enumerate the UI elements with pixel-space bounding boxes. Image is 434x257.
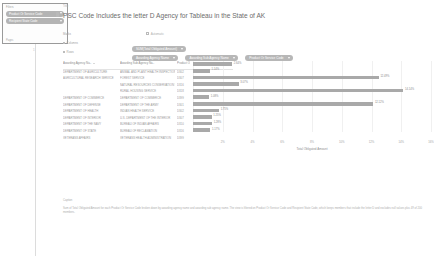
shelves: Marks Automatic Columns SUM(Total Obliga…	[60, 30, 431, 57]
chevron-down-icon[interactable]	[173, 57, 175, 59]
bar-value-label: 1.25%	[213, 114, 221, 117]
columns-shelf-label: Columns	[63, 41, 78, 45]
columns-shelf-text: Columns	[67, 41, 78, 45]
bar-value-label: 12.49%	[380, 75, 389, 78]
grid-icon	[63, 42, 65, 44]
filter-pill-label: Product Or Service Code	[9, 12, 42, 16]
rows-shelf-label: Rows	[63, 50, 74, 54]
cell-awarding-sub-agency-name: INDIAN HEALTH SERVICE	[120, 109, 175, 113]
bar[interactable]	[193, 89, 403, 93]
cell-awarding-agency-name: DEPARTMENT OF DEFENSE	[63, 103, 119, 107]
bar[interactable]	[193, 76, 379, 80]
cell-product-or-service-code: D307	[177, 76, 190, 80]
bar-value-label: 12.12%	[375, 101, 384, 104]
column-header-awarding-agency-name[interactable]: Awarding Agency Na..	[63, 61, 119, 65]
cell-awarding-agency-name: DEPARTMENT OF STATE	[63, 129, 119, 133]
cell-awarding-sub-agency-name: BUREAU OF INDIAN AFFAIRS	[120, 122, 175, 126]
cell-product-or-service-code: D302	[177, 70, 190, 74]
marks-shelf[interactable]: Marks Automatic	[60, 30, 431, 39]
bar-value-label: 2.64%	[234, 62, 242, 65]
caption-label: Caption	[63, 199, 72, 202]
x-axis: Total Obligated Amount 2%4%6%8%10%12%14%…	[193, 140, 431, 153]
bar-value-label: 14.14%	[405, 88, 414, 91]
bar[interactable]	[193, 95, 209, 99]
cell-product-or-service-code: D302	[177, 109, 190, 113]
cell-awarding-sub-agency-name: DEPARTMENT OF COMMERCE	[120, 96, 175, 100]
filter-pill-label: Recipient State Code	[9, 19, 37, 23]
x-axis-tick: 16%	[428, 140, 434, 144]
worksheet-icon	[56, 12, 59, 17]
chevron-down-icon[interactable]	[233, 57, 235, 59]
cell-awarding-agency-name: VETERANS AFFAIRS	[63, 136, 119, 140]
cell-awarding-sub-agency-name: U.S. DEPARTMENT OF THE INTERIOR	[120, 116, 175, 120]
x-axis-tick: 8%	[310, 140, 314, 144]
cell-product-or-service-code: D399	[177, 96, 190, 100]
rows-shelf-text: Rows	[67, 50, 74, 54]
cell-awarding-sub-agency-name: NATURAL RESOURCES CONSERVATION SERVICE	[120, 83, 175, 87]
column-header-awarding-sub-agency-name[interactable]: Awarding Sub Agency Na..	[120, 61, 175, 65]
bar-value-label: 1.17%	[212, 128, 220, 131]
cell-product-or-service-code: D399	[177, 136, 190, 140]
bar[interactable]	[193, 128, 210, 132]
column-header-label: Awarding Sub Agency Na..	[120, 61, 154, 65]
cell-product-or-service-code: D307	[177, 116, 190, 120]
x-axis-tick: 10%	[339, 140, 345, 144]
plot-area: 2.64%1.14%12.49%3.07%14.14%1.08%12.12%1.…	[193, 61, 431, 139]
x-axis-title: Total Obligated Amount	[193, 147, 431, 151]
cell-product-or-service-code: D310	[177, 122, 190, 126]
rows-shelf[interactable]: Rows Awarding Agency Name Awarding Sub A…	[60, 48, 431, 57]
bar[interactable]	[193, 122, 212, 126]
cell-awarding-agency-name: DEPARTMENT OF THE NAVY	[63, 122, 119, 126]
column-header-label: Awarding Agency Na..	[63, 61, 91, 65]
bar[interactable]	[193, 115, 212, 119]
bar[interactable]	[193, 109, 219, 113]
pill-label: Awarding Agency Name	[136, 56, 169, 60]
cell-product-or-service-code: D301	[177, 103, 190, 107]
bar-mark-icon	[146, 32, 149, 35]
x-axis-tick: 2%	[221, 140, 225, 144]
bar-value-label: 1.08%	[211, 95, 219, 98]
filter-pill-recipient-state-code[interactable]: Recipient State Code	[6, 18, 64, 24]
x-axis-tick: 4%	[250, 140, 254, 144]
panel-divider	[35, 44, 36, 256]
chart-view: Awarding Agency Na.. Awarding Sub Agency…	[60, 61, 431, 147]
pill-label: Awarding Sub Agency Name	[189, 56, 228, 60]
marks-type-selector[interactable]: Automatic	[146, 32, 164, 36]
bar-value-label: 1.14%	[212, 68, 220, 71]
cell-product-or-service-code: D318	[177, 89, 190, 93]
bar-value-label: 1.28%	[214, 121, 222, 124]
title-field-label: Title	[63, 5, 68, 8]
bar[interactable]	[193, 102, 373, 106]
chevron-down-icon[interactable]	[288, 57, 290, 59]
cell-awarding-agency-name: DEPARTMENT OF AGRICULTURE	[63, 70, 119, 74]
x-axis-tick: 12%	[369, 140, 375, 144]
cell-awarding-agency-name: DEPARTMENT OF INTERIOR	[63, 116, 119, 120]
marks-type-label: Automatic	[151, 32, 164, 36]
bar[interactable]	[193, 82, 239, 86]
column-header-product-or-service-code[interactable]: Product Or..	[177, 61, 190, 65]
bar-value-label: 1.75%	[221, 108, 229, 111]
cell-awarding-agency-name: DEPARTMENT OF COMMERCE	[63, 96, 119, 100]
x-axis-tick: 6%	[280, 140, 284, 144]
cell-product-or-service-code: D316	[177, 129, 190, 133]
pages-shelf-label: Pages	[6, 39, 13, 42]
cell-awarding-sub-agency-name: VETERANS HEALTH ADMINISTRATION	[120, 136, 175, 140]
cell-awarding-sub-agency-name: BUREAU OF RECLAMATION	[120, 129, 175, 133]
chevron-down-icon[interactable]	[93, 63, 95, 64]
cell-awarding-sub-agency-name: RURAL HOUSING SERVICE	[120, 89, 175, 93]
cell-awarding-sub-agency-name: DEPARTMENT OF THE ARMY	[120, 103, 175, 107]
filters-panel: Filters Product Or Service Code Recipien…	[2, 3, 68, 44]
cell-awarding-agency-name: AGRICULTURAL RESEARCH SERVICE	[63, 76, 119, 80]
column-header-label: Product Or..	[177, 61, 190, 65]
worksheet: Title PSC Code Includes the letter D Age…	[60, 3, 431, 254]
columns-shelf[interactable]: Columns SUM(Total Obligated Amount)	[60, 39, 431, 48]
cell-awarding-sub-agency-name: FOREST SERVICE	[120, 76, 175, 80]
bar[interactable]	[193, 62, 232, 66]
cell-product-or-service-code: D316	[177, 83, 190, 87]
x-axis-tick: 14%	[398, 140, 404, 144]
grid-icon	[63, 51, 65, 53]
panel-tick-label: 1	[33, 48, 35, 52]
bar[interactable]	[193, 69, 210, 73]
caption-text: Sum of Total Obligated Amount for each P…	[63, 207, 429, 215]
